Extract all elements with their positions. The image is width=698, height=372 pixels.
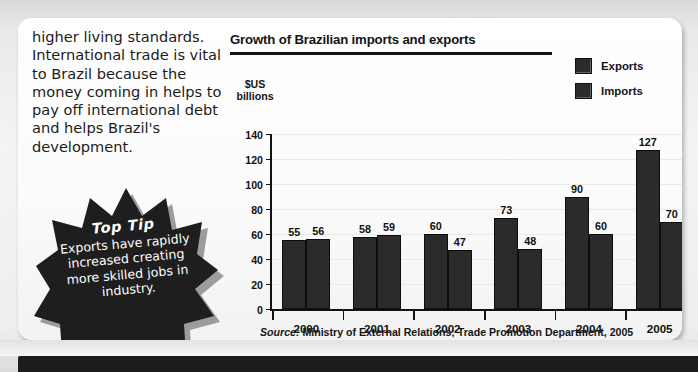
category-tick bbox=[272, 311, 274, 320]
gridline bbox=[271, 284, 682, 285]
bar-value-label: 58 bbox=[359, 223, 371, 235]
y-axis-caption-line2: billions bbox=[226, 90, 284, 102]
bar-value-label: 59 bbox=[383, 221, 395, 233]
bar-value-label: 56 bbox=[312, 225, 324, 237]
legend-label-imports: Imports bbox=[601, 85, 643, 97]
plot: 0204060801001201405556200058592001604720… bbox=[236, 126, 676, 338]
bottom-bar bbox=[18, 356, 698, 372]
gridline bbox=[271, 234, 682, 235]
bar-value-label: 60 bbox=[430, 220, 442, 232]
x-axis-line bbox=[270, 309, 682, 311]
bar-value-label: 73 bbox=[500, 204, 512, 216]
y-tick-label: 120 bbox=[236, 154, 263, 166]
chart-figure: Growth of Brazilian imports and exports … bbox=[224, 26, 676, 338]
bar-imports-2002 bbox=[448, 250, 472, 309]
bar-imports-2005 bbox=[660, 222, 682, 310]
legend-swatch-exports bbox=[575, 58, 592, 74]
content-card: higher living standards. International t… bbox=[18, 18, 682, 340]
category-label-2005: 2005 bbox=[647, 322, 673, 335]
bar-exports-2001 bbox=[353, 237, 377, 310]
chart-title: Growth of Brazilian imports and exports bbox=[230, 32, 475, 47]
chart-title-rule bbox=[230, 52, 552, 55]
y-tick-mark bbox=[266, 184, 271, 185]
bar-value-label: 90 bbox=[571, 183, 583, 195]
y-tick-label: 20 bbox=[236, 279, 263, 291]
gridline bbox=[271, 134, 682, 135]
category-tick bbox=[343, 311, 345, 320]
bar-exports-2003 bbox=[494, 218, 518, 309]
y-tick-mark bbox=[266, 234, 271, 235]
y-tick-mark bbox=[266, 309, 271, 310]
bottom-gap bbox=[0, 340, 698, 356]
bar-value-label: 47 bbox=[454, 236, 466, 248]
bar-imports-2004 bbox=[589, 234, 613, 309]
y-tick-label: 40 bbox=[236, 254, 263, 266]
category-tick bbox=[555, 311, 557, 320]
y-tick-label: 140 bbox=[236, 129, 263, 141]
y-tick-mark bbox=[266, 159, 271, 160]
bar-value-label: 55 bbox=[288, 226, 300, 238]
top-tip-starburst bbox=[34, 186, 218, 340]
y-tick-mark bbox=[266, 284, 271, 285]
bar-imports-2003 bbox=[518, 249, 542, 309]
bar-imports-2001 bbox=[377, 235, 401, 309]
gridline bbox=[271, 209, 682, 210]
bar-value-label: 70 bbox=[666, 208, 678, 220]
y-axis-caption-line1: $US bbox=[226, 78, 284, 90]
bar-value-label: 127 bbox=[639, 136, 657, 148]
legend-item-imports: Imports bbox=[575, 83, 682, 99]
bar-exports-2002 bbox=[424, 234, 448, 309]
y-tick-label: 80 bbox=[236, 204, 263, 216]
y-tick-label: 100 bbox=[236, 179, 263, 191]
y-tick-label: 0 bbox=[236, 304, 263, 316]
bar-exports-2005 bbox=[636, 150, 660, 309]
gridline bbox=[271, 159, 682, 160]
bar-imports-2000 bbox=[306, 239, 330, 309]
y-tick-mark bbox=[266, 134, 271, 135]
gridline bbox=[271, 184, 682, 185]
chart-legend: Exports Imports bbox=[575, 58, 682, 108]
bar-exports-2004 bbox=[565, 197, 589, 310]
y-tick-mark bbox=[266, 209, 271, 210]
category-tick bbox=[413, 311, 415, 320]
legend-swatch-imports bbox=[575, 83, 592, 99]
bar-exports-2000 bbox=[282, 240, 306, 309]
gridline bbox=[271, 259, 682, 260]
plot-area bbox=[271, 134, 682, 309]
chart-source: Source: Ministry of External Relations; … bbox=[260, 326, 633, 338]
y-tick-mark bbox=[266, 259, 271, 260]
top-tip-badge: Top Tip Exports have rapidly increased c… bbox=[34, 186, 218, 340]
bar-value-label: 48 bbox=[524, 235, 536, 247]
bar-value-label: 60 bbox=[595, 220, 607, 232]
chart-source-text: Ministry of External Relations; Trade Pr… bbox=[302, 326, 633, 338]
y-axis-caption: $US billions bbox=[226, 78, 284, 102]
category-tick bbox=[625, 311, 627, 320]
body-paragraph: higher living standards. International t… bbox=[32, 28, 228, 156]
body-copy: higher living standards. International t… bbox=[32, 28, 228, 156]
y-tick-label: 60 bbox=[236, 229, 263, 241]
category-tick bbox=[484, 311, 486, 320]
legend-item-exports: Exports bbox=[575, 58, 682, 74]
legend-label-exports: Exports bbox=[601, 60, 643, 72]
chart-source-prefix: Source: bbox=[260, 326, 299, 338]
